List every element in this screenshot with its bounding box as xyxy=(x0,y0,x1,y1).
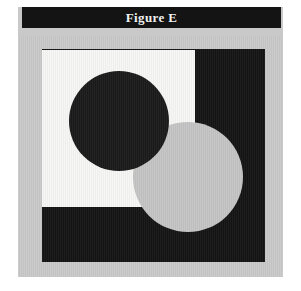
figure-caption-bar: Figure E xyxy=(22,7,281,28)
figure-artwork xyxy=(18,36,283,277)
black-circle-shape xyxy=(69,71,169,171)
figure-caption-label: Figure E xyxy=(126,11,178,24)
white-square-shape xyxy=(42,50,195,207)
figure-root: Figure E xyxy=(0,0,301,291)
